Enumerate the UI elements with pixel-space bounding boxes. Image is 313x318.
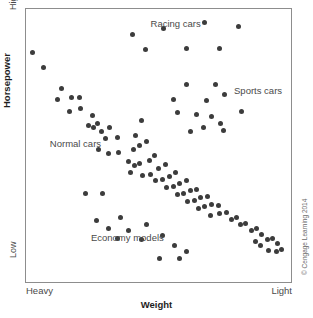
scatter-point <box>103 136 108 141</box>
scatter-point <box>217 46 222 51</box>
scatter-point <box>181 191 186 196</box>
scatter-point <box>139 118 144 123</box>
scatter-point <box>184 82 189 87</box>
scatter-point <box>265 237 270 242</box>
scatter-point <box>171 97 176 102</box>
scatter-point <box>67 109 72 114</box>
scatter-point <box>184 178 189 183</box>
scatter-point <box>91 125 96 130</box>
scatter-point <box>152 153 157 158</box>
scatter-point <box>173 170 178 175</box>
scatter-point <box>116 150 121 155</box>
scatter-point <box>164 185 169 190</box>
scatter-point <box>188 129 193 134</box>
x-axis-tick-light: Light <box>271 286 292 296</box>
scatter-point <box>118 215 123 220</box>
cluster-label: Economy models <box>91 233 164 243</box>
scatter-point <box>218 121 223 126</box>
scatter-point <box>184 46 189 51</box>
scatter-point <box>153 178 158 183</box>
scatter-point <box>234 215 239 220</box>
scatter-point <box>78 106 83 111</box>
scatter-point <box>205 194 210 199</box>
scatter-point <box>147 158 152 163</box>
scatter-point <box>144 222 149 227</box>
scatter-point <box>137 161 142 166</box>
scatter-point <box>275 241 280 246</box>
y-axis-title: Horsepower <box>2 53 12 108</box>
scatter-point <box>140 173 145 178</box>
scatter-point <box>95 121 100 126</box>
scatter-point <box>133 133 138 138</box>
scatter-point <box>274 249 279 254</box>
scatter-point <box>100 191 105 196</box>
scatter-point <box>175 192 180 197</box>
scatter-plot-figure: Horsepower High Low Racing carsSports ca… <box>0 0 313 318</box>
scatter-point <box>59 86 64 91</box>
scatter-point <box>216 203 221 208</box>
scatter-point <box>131 147 136 152</box>
scatter-point <box>106 151 111 156</box>
scatter-point <box>229 217 234 222</box>
scatter-point <box>86 123 91 128</box>
scatter-point <box>184 249 189 254</box>
scatter-point <box>194 112 199 117</box>
scatter-point <box>177 181 182 186</box>
scatter-point <box>208 213 213 218</box>
scatter-point <box>258 243 263 248</box>
copyright-credit: © Cengage Learning 2014 <box>302 199 309 275</box>
scatter-point <box>144 139 149 144</box>
scatter-point <box>279 247 284 252</box>
scatter-point <box>177 256 182 261</box>
scatter-point <box>188 188 193 193</box>
scatter-point <box>130 32 135 37</box>
scatter-point <box>171 184 176 189</box>
y-axis-tick-high: High <box>9 0 18 10</box>
y-axis-title-text: Horsepower <box>2 53 12 108</box>
scatter-point <box>243 221 248 226</box>
scatter-point <box>224 210 229 215</box>
cluster-label: Racing cars <box>151 19 201 29</box>
scatter-point <box>69 95 74 100</box>
scatter-point <box>30 50 35 55</box>
scatter-point <box>55 97 60 102</box>
scatter-point <box>115 135 120 140</box>
cluster-label: Sports cars <box>234 86 282 96</box>
scatter-point <box>99 129 104 134</box>
scatter-point <box>254 226 259 231</box>
scatter-point <box>249 228 254 233</box>
scatter-point <box>209 202 214 207</box>
scatter-point <box>132 163 137 168</box>
scatter-point <box>217 211 222 216</box>
scatter-point <box>157 256 162 261</box>
scatter-point <box>128 170 133 175</box>
cluster-label: Normal cars <box>50 139 101 149</box>
scatter-point <box>270 236 275 241</box>
scatter-point <box>221 128 226 133</box>
scatter-point <box>202 20 207 25</box>
scatter-point <box>238 222 243 227</box>
scatter-point <box>202 204 207 209</box>
plot-area: Racing carsSports carsNormal carsEconomy… <box>25 8 292 283</box>
scatter-point <box>77 95 82 100</box>
scatter-point <box>185 199 190 204</box>
scatter-point <box>143 47 148 52</box>
x-axis-title: Weight <box>0 300 313 310</box>
scatter-point <box>239 109 244 114</box>
scatter-point <box>204 98 209 103</box>
scatter-point <box>160 177 165 182</box>
scatter-point <box>213 82 218 87</box>
scatter-point <box>266 248 271 253</box>
scatter-point <box>172 243 177 248</box>
scatter-point <box>198 195 203 200</box>
scatter-point <box>137 143 142 148</box>
scatter-point <box>126 159 131 164</box>
scatter-point <box>222 92 227 97</box>
scatter-point <box>196 206 201 211</box>
scatter-point <box>194 187 199 192</box>
scatter-point <box>236 24 241 29</box>
scatter-point <box>163 162 168 167</box>
y-axis-tick-low: Low <box>9 241 18 258</box>
scatter-point <box>107 125 112 130</box>
scatter-point <box>175 110 180 115</box>
